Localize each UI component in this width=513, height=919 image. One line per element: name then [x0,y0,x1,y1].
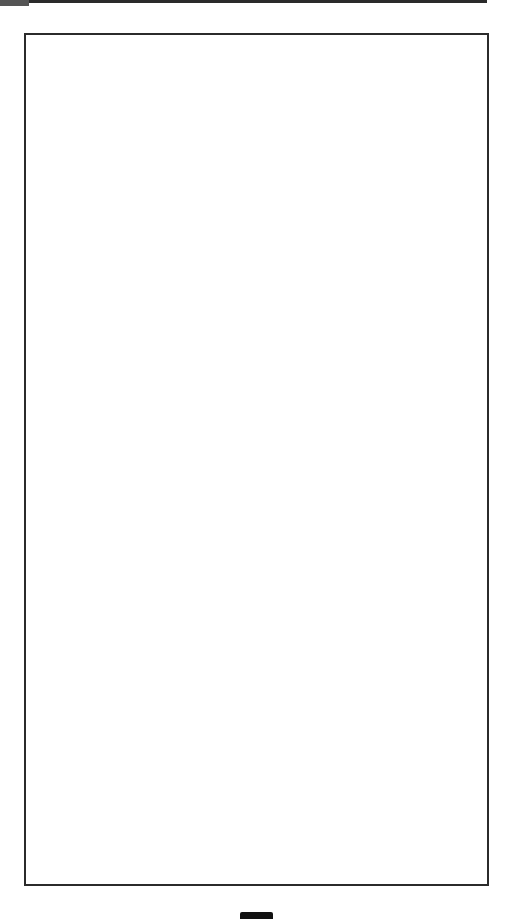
header-tab [0,0,29,6]
page-marker [240,912,273,919]
content-frame [24,33,489,886]
frame-content [26,35,487,884]
header-rule [0,0,487,3]
